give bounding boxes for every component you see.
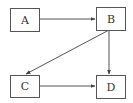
node-a-label: A [20, 14, 30, 27]
node-c: C [11, 76, 40, 98]
edge-b-to-c [26, 30, 109, 74]
node-d-label: D [107, 81, 116, 94]
node-a: A [11, 9, 40, 32]
node-b: B [97, 8, 126, 31]
node-d: D [97, 76, 126, 99]
node-c-label: C [21, 80, 29, 93]
node-b-label: B [107, 13, 115, 26]
diagram-canvas: A B C D [0, 0, 133, 103]
